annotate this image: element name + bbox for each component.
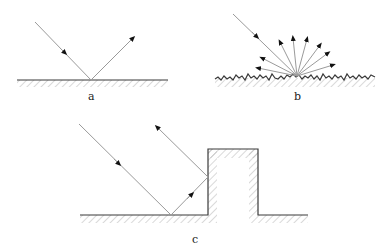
reflection-diagram: a b c <box>0 0 389 252</box>
panel-label-c: c <box>192 233 198 246</box>
wall-hatch-left <box>208 149 217 223</box>
floor-hatch-left <box>80 215 208 223</box>
second-reflected-ray <box>157 127 208 177</box>
first-reflected-arrow-icon <box>187 194 192 199</box>
surface-hatch <box>215 78 375 87</box>
surface-hatch <box>17 80 168 87</box>
panel-c: c <box>79 124 308 246</box>
incident-ray <box>233 14 297 76</box>
reflected-ray <box>91 38 133 80</box>
incident-arrow-icon <box>252 32 257 37</box>
panel-b: b <box>215 14 375 103</box>
scattered-rays <box>258 38 333 76</box>
panel-label-a: a <box>88 90 95 103</box>
incident-arrow-icon <box>114 159 119 164</box>
incident-ray <box>79 124 171 215</box>
floor-hatch-right <box>258 215 308 223</box>
panel-a: a <box>17 22 168 103</box>
panel-label-b: b <box>294 90 301 103</box>
wall-hatch-right <box>249 149 258 223</box>
incident-arrow-icon <box>60 48 65 53</box>
